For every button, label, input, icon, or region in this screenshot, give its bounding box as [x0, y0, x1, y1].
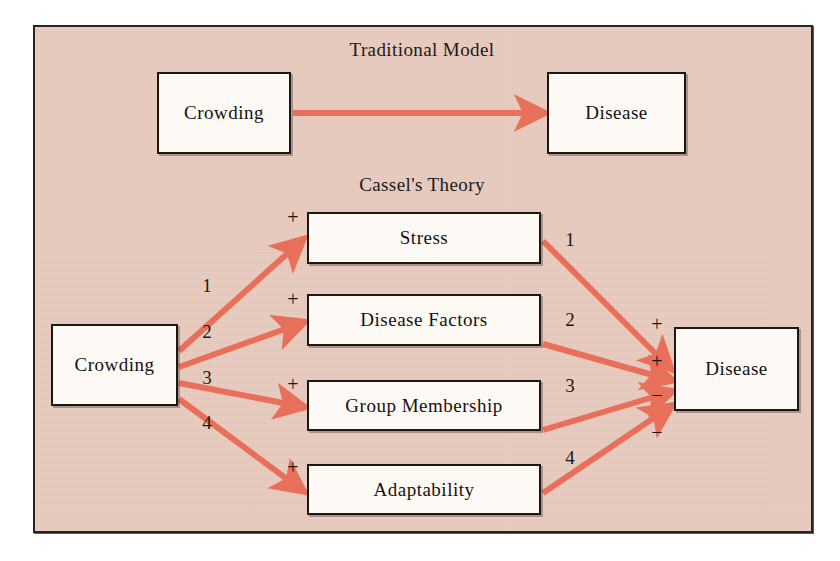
sign-out-group-membership: − [651, 385, 662, 405]
node-cassel-disease[interactable]: Disease [674, 327, 799, 411]
arrow-crowding-to-group-membership [179, 383, 299, 406]
node-stress[interactable]: Stress [307, 212, 541, 264]
sign-in-stress: + [287, 207, 298, 227]
sign-in-disease-factors: + [287, 289, 298, 309]
node-cassel-crowding[interactable]: Crowding [51, 324, 178, 406]
cassels-theory-title: Cassel's Theory [359, 174, 485, 196]
traditional-model-title: Traditional Model [350, 39, 495, 61]
node-traditional-crowding[interactable]: Crowding [157, 72, 291, 154]
node-disease-factors[interactable]: Disease Factors [307, 294, 541, 346]
arrow-crowding-to-adaptability [179, 399, 299, 488]
path-number-left-4: 4 [202, 413, 212, 432]
sign-out-disease-factors: + [651, 351, 662, 371]
arrow-crowding-to-stress [179, 243, 299, 351]
sign-out-stress: + [651, 314, 662, 334]
path-number-left-3: 3 [202, 368, 212, 387]
node-traditional-disease[interactable]: Disease [547, 72, 686, 154]
arrow-layer [35, 27, 815, 535]
path-number-right-3: 3 [565, 376, 575, 395]
node-adaptability[interactable]: Adaptability [307, 464, 541, 515]
path-number-left-1: 1 [202, 276, 212, 295]
diagram-frame: Traditional Model Cassel's Theory Crowdi… [33, 25, 813, 533]
sign-in-group-membership: + [287, 374, 298, 394]
path-number-right-4: 4 [565, 448, 575, 467]
path-number-left-2: 2 [202, 322, 212, 341]
path-number-right-1: 1 [565, 230, 575, 249]
arrow-crowding-to-disease-factors [179, 324, 299, 367]
sign-in-adaptability: + [287, 457, 298, 477]
node-group-membership[interactable]: Group Membership [307, 380, 541, 431]
sign-out-adaptability: − [651, 422, 662, 442]
figure-canvas: Traditional Model Cassel's Theory Crowdi… [0, 0, 840, 561]
path-number-right-2: 2 [565, 310, 575, 329]
